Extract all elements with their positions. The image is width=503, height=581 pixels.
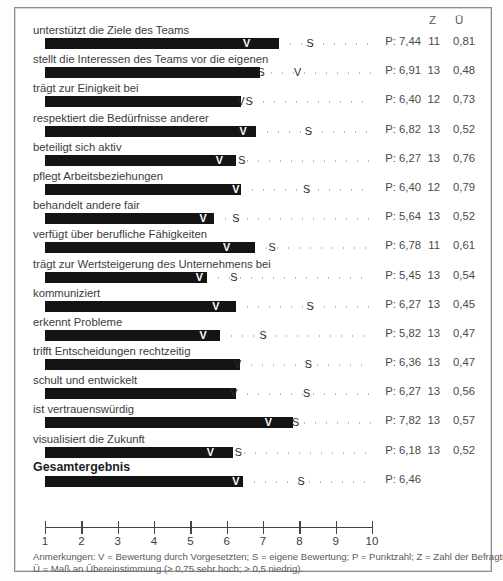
row-plot: VSP: 5,82130,47	[0, 330, 503, 342]
agreement-value: 0,47	[449, 327, 475, 339]
self-rating-marker: S	[305, 124, 312, 138]
points-value: P: 6,78	[377, 239, 421, 251]
points-value: P: 6,18	[377, 444, 421, 456]
supervisor-rating-marker: V	[196, 270, 203, 284]
leader-dots	[247, 101, 372, 103]
supervisor-rating-marker: V	[294, 65, 301, 79]
competency-label: beteiligt sich aktiv	[33, 141, 122, 154]
row-plot: VSP: 6,40120,73	[0, 96, 503, 108]
points-value: P: 6,46	[377, 473, 421, 485]
competency-label: stellt die Interessen des Teams vor die …	[33, 53, 268, 66]
supervisor-rating-marker: V	[239, 124, 246, 138]
points-value: P: 7,82	[377, 414, 421, 426]
score-bar	[45, 417, 293, 428]
self-rating-marker: S	[298, 474, 305, 488]
row-plot: VSP: 6,78110,61	[0, 242, 503, 254]
score-bar	[45, 213, 214, 224]
competency-row: behandelt andere fairVSP: 5,64130,52	[0, 199, 503, 228]
self-rating-marker: S	[303, 386, 310, 400]
leader-dots	[226, 335, 372, 337]
competency-label: erkennt Probleme	[33, 316, 122, 329]
competency-row: ist vertrauenswürdigVSP: 7,82130,57	[0, 403, 503, 432]
competency-label: verfügt über berufliche Fähigkeiten	[33, 228, 207, 241]
competency-row: unterstützt die Ziele des TeamsVSP: 7,44…	[0, 24, 503, 53]
competency-label: Gesamtergebnis	[33, 461, 130, 474]
x-axis: 12345678910	[0, 519, 503, 549]
competency-label: pflegt Arbeitsbeziehungen	[33, 170, 163, 183]
supervisor-rating-marker: V	[199, 328, 206, 342]
respondent-count-value: 13	[424, 64, 440, 76]
points-value: P: 6,40	[377, 93, 421, 105]
footnote-line-1: Anmerkungen: V = Bewertung durch Vorgese…	[33, 551, 481, 563]
supervisor-rating-marker: V	[232, 474, 239, 488]
axis-tick-label: 1	[42, 535, 48, 547]
supervisor-rating-marker: V	[243, 36, 250, 50]
axis-tick	[45, 521, 46, 534]
self-rating-marker: S	[303, 182, 310, 196]
axis-line	[45, 527, 372, 528]
supervisor-rating-marker: V	[212, 299, 219, 313]
competency-row-list: unterstützt die Ziele des TeamsVSP: 7,44…	[0, 24, 503, 491]
leader-dots	[285, 43, 372, 45]
points-value: P: 6,27	[377, 298, 421, 310]
agreement-value: 0,52	[449, 444, 475, 456]
points-value: P: 5,82	[377, 327, 421, 339]
axis-tick-label: 9	[332, 535, 338, 547]
score-bar	[45, 184, 241, 195]
agreement-value: 0,61	[449, 239, 475, 251]
competency-label: unterstützt die Ziele des Teams	[33, 24, 189, 37]
agreement-value: 0,45	[449, 298, 475, 310]
competency-label: behandelt andere fair	[33, 199, 140, 212]
agreement-value: 0,81	[449, 35, 475, 47]
agreement-value: 0,52	[449, 210, 475, 222]
score-bar	[45, 359, 240, 370]
agreement-value: 0,54	[449, 269, 475, 281]
points-value: P: 6,91	[377, 64, 421, 76]
competency-row: erkennt ProblemeVSP: 5,82130,47	[0, 316, 503, 345]
respondent-count-value: 13	[424, 269, 440, 281]
respondent-count-value: 12	[424, 181, 440, 193]
supervisor-rating-marker: V	[216, 153, 223, 167]
score-bar	[45, 447, 233, 458]
score-bar	[45, 67, 260, 78]
self-rating-marker: S	[292, 415, 299, 429]
self-rating-marker: S	[305, 357, 312, 371]
row-plot: VSP: 6,40120,79	[0, 184, 503, 196]
supervisor-rating-marker: V	[232, 182, 239, 196]
respondent-count-value: 12	[424, 93, 440, 105]
agreement-value: 0,73	[449, 93, 475, 105]
chart-footnote: Anmerkungen: V = Bewertung durch Vorgese…	[33, 551, 481, 574]
axis-tick-label: 10	[366, 535, 379, 547]
axis-tick	[336, 521, 337, 534]
self-rating-marker: S	[268, 240, 275, 254]
axis-tick-label: 3	[114, 535, 120, 547]
supervisor-rating-marker: V	[207, 445, 214, 459]
supervisor-rating-marker: V	[265, 415, 272, 429]
self-rating-marker: S	[307, 299, 314, 313]
points-value: P: 7,44	[377, 35, 421, 47]
agreement-value: 0,57	[449, 414, 475, 426]
respondent-count-value: 11	[424, 239, 440, 251]
competency-label: visualisiert die Zukunft	[33, 433, 145, 446]
agreement-value: 0,76	[449, 152, 475, 164]
respondent-count-value: 13	[424, 298, 440, 310]
axis-tick	[299, 521, 300, 534]
points-value: P: 6,27	[377, 385, 421, 397]
competency-label: respektiert die Bedürfnisse anderer	[33, 112, 209, 125]
axis-tick-label: 2	[78, 535, 84, 547]
agreement-value: 0,56	[449, 385, 475, 397]
competency-row: respektiert die Bedürfnisse andererVSP: …	[0, 112, 503, 141]
points-value: P: 6,27	[377, 152, 421, 164]
score-bar	[45, 388, 236, 399]
competency-label: ist vertrauenswürdig	[33, 403, 134, 416]
axis-tick	[263, 521, 264, 534]
feedback-chart-page: Z Ü unterstützt die Ziele des TeamsVSP: …	[0, 0, 503, 581]
competency-label: kommuniziert	[33, 287, 100, 300]
points-value: P: 6,36	[377, 356, 421, 368]
axis-tick-label: 6	[223, 535, 229, 547]
score-bar	[45, 155, 236, 166]
row-plot: VSP: 5,64130,52	[0, 213, 503, 225]
footnote-line-2: Ü = Maß an Übereinstimmung (> 0,75 sehr …	[33, 563, 481, 575]
self-rating-marker: S	[307, 36, 314, 50]
row-plot: VSP: 7,44110,81	[0, 38, 503, 50]
